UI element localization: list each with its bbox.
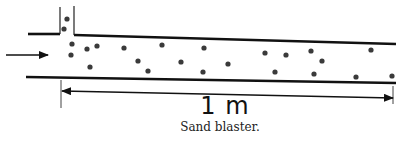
sand-particle	[225, 61, 230, 66]
sand-particle	[121, 45, 126, 50]
sand-particle	[311, 71, 316, 76]
sand-particle	[69, 41, 74, 46]
figure-caption: Sand blaster.	[140, 120, 300, 134]
pipe-top-wall	[74, 35, 396, 44]
sand-particle	[145, 68, 150, 73]
sand-particle	[61, 26, 66, 31]
sand-particle	[368, 47, 373, 52]
sand-particle	[68, 52, 73, 57]
sand-particle	[87, 64, 92, 69]
sand-particle	[64, 16, 69, 21]
sand-particle	[283, 52, 288, 57]
sand-particle	[308, 48, 313, 53]
sand-particle	[319, 58, 324, 63]
sand-particle	[201, 45, 206, 50]
sand-particle	[135, 58, 140, 63]
sand-particle	[94, 43, 99, 48]
pipe-walls	[26, 34, 396, 83]
sand-particle	[84, 46, 89, 51]
sand-particle	[353, 74, 358, 79]
sand-particles	[61, 16, 394, 79]
length-label: 1 m	[190, 92, 260, 120]
sand-particle	[272, 69, 277, 74]
sand-particle	[262, 50, 267, 55]
sand-particle	[178, 59, 183, 64]
sand-particle	[200, 69, 205, 74]
pipe-bottom-wall	[26, 77, 396, 83]
sand-particle	[159, 42, 164, 47]
sand-particle	[389, 73, 394, 78]
